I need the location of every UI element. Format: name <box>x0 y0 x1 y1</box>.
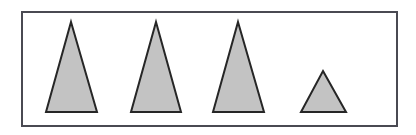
figure-canvas <box>0 0 416 135</box>
triangles-figure <box>0 0 416 135</box>
